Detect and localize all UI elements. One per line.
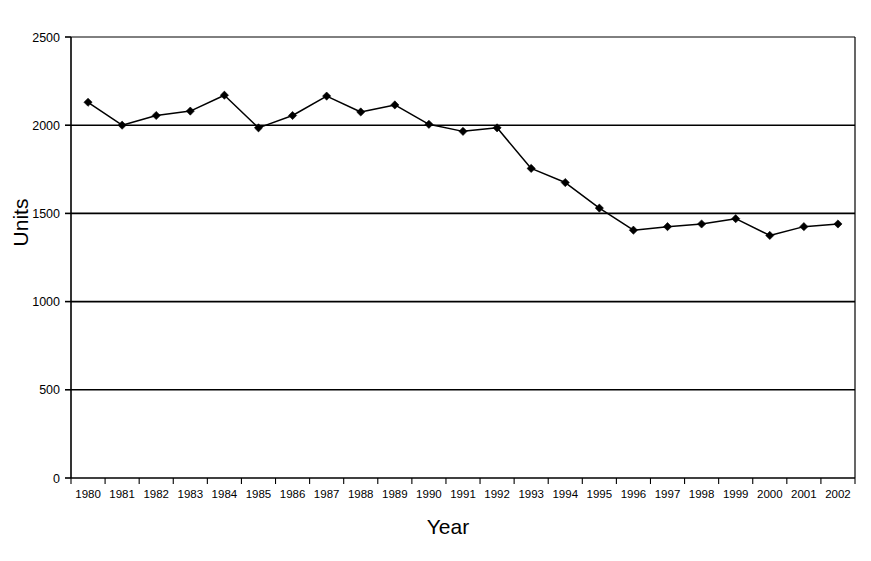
x-tick-label-1989: 1989: [382, 488, 408, 500]
x-tick-label-1984: 1984: [212, 488, 238, 500]
x-tick-label-1981: 1981: [109, 488, 135, 500]
chart-canvas: 0500100015002000250019801981198219831984…: [0, 0, 871, 561]
x-tick-label-1986: 1986: [280, 488, 306, 500]
y-tick-label-0: 0: [53, 472, 60, 486]
x-tick-label-1997: 1997: [655, 488, 681, 500]
y-tick-label-2000: 2000: [32, 119, 60, 133]
x-tick-label-1999: 1999: [723, 488, 749, 500]
x-tick-label-1987: 1987: [314, 488, 340, 500]
y-tick-label-1000: 1000: [32, 295, 60, 309]
x-tick-label-1994: 1994: [552, 488, 578, 500]
x-tick-label-1993: 1993: [518, 488, 544, 500]
x-tick-label-1988: 1988: [348, 488, 374, 500]
x-tick-label-1998: 1998: [689, 488, 715, 500]
y-tick-label-500: 500: [39, 383, 60, 397]
x-tick-label-1983: 1983: [178, 488, 204, 500]
x-tick-label-2001: 2001: [791, 488, 817, 500]
x-tick-label-1985: 1985: [246, 488, 272, 500]
plot-area-background: [71, 37, 855, 478]
y-axis-title: Units: [9, 199, 32, 247]
line-chart-figure: 0500100015002000250019801981198219831984…: [0, 0, 871, 561]
x-tick-label-1982: 1982: [143, 488, 169, 500]
x-tick-label-2000: 2000: [757, 488, 783, 500]
x-tick-label-1992: 1992: [484, 488, 510, 500]
x-tick-label-1995: 1995: [587, 488, 613, 500]
x-tick-label-1991: 1991: [450, 488, 476, 500]
x-tick-label-1980: 1980: [75, 488, 101, 500]
y-tick-label-2500: 2500: [32, 31, 60, 45]
x-tick-label-2002: 2002: [825, 488, 851, 500]
x-tick-label-1996: 1996: [621, 488, 647, 500]
x-axis-title: Year: [427, 515, 469, 538]
x-tick-label-1990: 1990: [416, 488, 442, 500]
y-tick-label-1500: 1500: [32, 207, 60, 221]
